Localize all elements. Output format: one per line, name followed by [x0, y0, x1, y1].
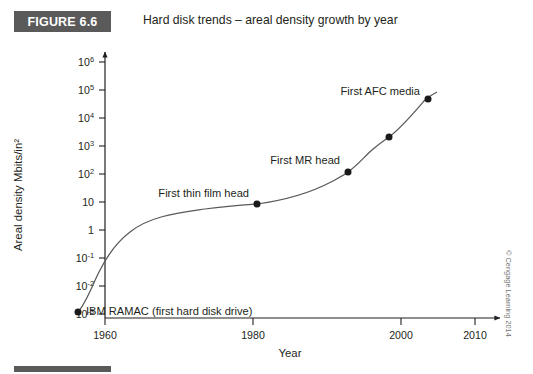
footer-rule	[14, 366, 111, 372]
annotation-ibm-ramac: IBM RAMAC (first hard disk drive)	[86, 305, 252, 317]
x-tick-label: 2010	[463, 329, 487, 341]
y-axis-title: Areal density Mbits/in²	[12, 139, 24, 251]
y-axis-tick-labels: 106 105 104 103 102 10 1	[76, 55, 94, 320]
point-annotations: IBM RAMAC (first hard disk drive) First …	[86, 85, 421, 317]
y-tick-label: 106	[78, 55, 94, 68]
y-tick-label: 104	[78, 111, 94, 124]
x-tick-label: 1980	[241, 329, 265, 341]
data-point-unlabeled	[386, 134, 393, 141]
annotation-first-afc-media: First AFC media	[340, 85, 420, 97]
x-axis-title: Year	[278, 347, 301, 359]
y-tick-label: 1	[88, 224, 94, 236]
chart-plot-area: 106 105 104 103 102 10 1	[0, 0, 533, 374]
data-point-first-afc-media	[425, 96, 432, 103]
x-tick-label: 2000	[389, 329, 413, 341]
y-tick-label: 103	[78, 139, 94, 152]
annotation-first-mr-head: First MR head	[270, 154, 340, 166]
data-point-ibm-ramac	[75, 309, 82, 316]
y-axis-ticks	[99, 62, 105, 314]
x-axis-ticks	[105, 318, 475, 325]
annotation-first-thin-film-head: First thin film head	[158, 187, 249, 199]
y-tick-label: 10-1	[76, 251, 94, 264]
data-point-first-mr-head	[345, 169, 352, 176]
x-tick-label: 1960	[93, 329, 117, 341]
chart-axes	[105, 52, 500, 318]
y-tick-label: 102	[78, 167, 94, 180]
data-points	[75, 96, 432, 316]
chart-svg: 106 105 104 103 102 10 1	[0, 0, 533, 374]
copyright-credit: © Cengage Learning 2014	[504, 250, 513, 337]
y-tick-label: 10	[82, 196, 94, 208]
figure-container: FIGURE 6.6 Hard disk trends – areal dens…	[0, 0, 533, 374]
y-tick-label: 105	[78, 83, 94, 96]
x-axis-tick-labels: 1960 1980 2000 2010	[93, 329, 487, 341]
data-point-first-thin-film-head	[254, 201, 261, 208]
